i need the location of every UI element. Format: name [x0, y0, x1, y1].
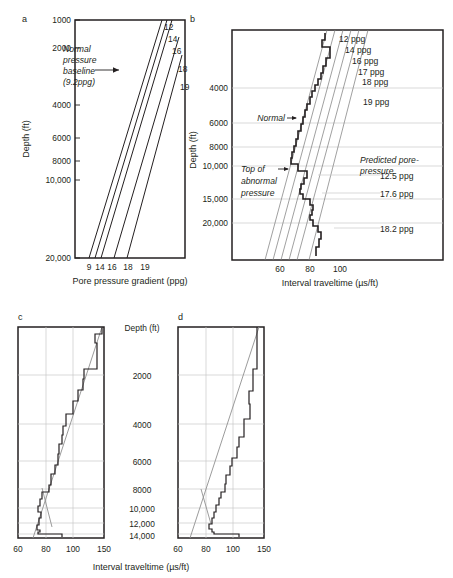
panel-b: b 4000 6000 8000 10,000 15,000 20,000	[188, 14, 443, 288]
panel-a-xtick-19: 19	[140, 262, 150, 272]
panel-b-annot-normal: Normal	[257, 113, 286, 123]
panel-a-label-18: 18	[178, 64, 188, 74]
panel-b-label-17ppg: 17 ppg	[358, 67, 385, 77]
panel-a-ytick-20000: 20,000	[45, 253, 71, 263]
panel-d: d 60 80	[173, 312, 271, 554]
panel-a-label-16: 16	[172, 46, 182, 56]
panel-a: a 1000 2000 4000 6000 8000 10,000 20,000…	[21, 14, 190, 286]
panel-a-xtick-16: 16	[107, 262, 117, 272]
panel-c-letter: c	[18, 312, 23, 322]
panel-b-annot-top-2: abnormal	[241, 176, 278, 186]
panel-c-xtick-150: 150	[97, 544, 111, 554]
panel-b-annot-top-3: pressure	[240, 188, 275, 198]
panel-a-annot-line-2: pressure	[62, 55, 97, 65]
depth-label-6000: 6000	[133, 457, 152, 467]
depth-label-12000: 12,000	[129, 519, 155, 529]
panel-cd-depth-column: Depth (ft) 2000 4000 6000 8000 10,000 12…	[125, 323, 160, 541]
panel-b-sonic-curve-group	[291, 33, 330, 256]
panel-b-normal-annotation: Normal	[257, 113, 297, 123]
panel-a-gradient-lines	[89, 20, 182, 258]
panel-b-line-18ppg	[297, 30, 359, 260]
panel-d-gridlines	[178, 327, 264, 538]
panel-b-label-18ppg: 18 ppg	[362, 77, 389, 87]
panel-d-normal-trend-upper	[190, 327, 259, 538]
panel-b-line-17ppg	[289, 30, 351, 260]
panel-a-xtick-14: 14	[95, 262, 105, 272]
panel-b-top-abnormal-annotation: Top of abnormal pressure	[240, 164, 289, 198]
panel-a-ytick-8000: 8000	[52, 156, 71, 166]
panel-b-annot-top-1: Top of	[241, 164, 266, 174]
panel-b-top-arrow-head	[284, 167, 289, 171]
panel-a-xtick-18: 18	[123, 262, 133, 272]
panel-a-ytick-10000: 10,000	[45, 175, 71, 185]
panel-a-ytick-6000: 6000	[52, 133, 71, 143]
panel-b-ytick-4000: 4000	[209, 83, 228, 93]
depth-label-4000: 4000	[133, 420, 152, 430]
panel-a-annot-line-1: Normal	[63, 44, 92, 54]
figure-svg: a 1000 2000 4000 6000 8000 10,000 20,000…	[0, 0, 453, 578]
depth-label-2000: 2000	[133, 371, 152, 381]
panel-b-predicted-17-6: 17.6 ppg	[380, 189, 414, 199]
panel-d-xtick-100: 100	[226, 544, 240, 554]
panel-c-xtick-60: 60	[13, 544, 23, 554]
panel-b-sonic-step-curve	[291, 33, 330, 256]
depth-label-10000: 10,000	[129, 504, 155, 514]
panel-b-label-14ppg: 14 ppg	[345, 45, 372, 55]
panel-c-plot-frame	[18, 327, 104, 538]
panel-a-xtick-9: 9	[87, 262, 92, 272]
panel-a-line-14	[95, 20, 167, 258]
panel-a-x-axis-title: Pore pressure gradient (ppg)	[72, 276, 187, 286]
panel-d-xtick-60: 60	[173, 544, 183, 554]
panel-b-normal-arrow-head	[292, 116, 297, 120]
panel-b-letter: b	[190, 14, 195, 24]
panel-c-xtick-100: 100	[66, 544, 80, 554]
panel-d-plot-frame	[178, 327, 264, 538]
panel-b-y-axis-title: Depth (ft)	[188, 131, 198, 169]
depth-label-14000: 14,000	[129, 531, 155, 541]
panel-a-label-14: 14	[168, 34, 178, 44]
panel-a-ytick-4000: 4000	[52, 100, 71, 110]
panel-b-label-16ppg: 16 ppg	[352, 56, 379, 66]
panel-b-x-axis-title: Interval traveltime (µs/ft)	[282, 278, 379, 288]
panel-b-leader-lines	[318, 175, 380, 228]
panel-c: c 60 80	[13, 312, 111, 554]
panel-b-label-12ppg: 12 ppg	[339, 34, 366, 44]
panel-c-normal-trend-upper	[33, 327, 102, 538]
panel-a-annot-arrow-head	[113, 67, 119, 72]
panel-a-annot-line-4: (9.2ppg)	[63, 77, 95, 87]
depth-label-8000: 8000	[133, 485, 152, 495]
panel-a-ytick-1000: 1000	[52, 15, 71, 25]
panel-c-gridlines	[18, 327, 104, 538]
panel-cd-x-axis-title: Interval traveltime (µs/ft)	[93, 562, 190, 572]
panel-d-letter: d	[178, 312, 183, 322]
panel-d-xtick-80: 80	[201, 544, 211, 554]
panel-b-xtick-80: 80	[305, 264, 315, 274]
panel-a-letter: a	[22, 14, 27, 24]
panel-b-xtick-60: 60	[275, 264, 285, 274]
panel-a-line-19	[127, 55, 182, 258]
panel-b-predicted-12-5: 12.5 ppg	[380, 171, 414, 181]
panel-b-predicted-block: Predicted pore- pressure 12.5 ppg 17.6 p…	[359, 155, 419, 234]
panel-b-line-16ppg	[281, 30, 343, 260]
panel-b-ytick-15000: 15,000	[202, 194, 228, 204]
panel-a-label-12: 12	[164, 22, 174, 32]
panel-b-predicted-header-1: Predicted pore-	[360, 155, 419, 165]
depth-column-header: Depth (ft)	[125, 323, 160, 333]
panel-b-label-19ppg: 19 ppg	[363, 97, 390, 107]
panel-a-baseline-annotation: Normal pressure baseline (9.2ppg)	[62, 44, 119, 87]
panel-b-xtick-100: 100	[333, 264, 347, 274]
panel-b-ytick-10000: 10,000	[202, 161, 228, 171]
panel-b-ytick-8000: 8000	[209, 142, 228, 152]
panel-b-ytick-20000: 20,000	[202, 218, 228, 228]
panel-c-curves	[33, 327, 102, 538]
panel-b-predicted-18-2: 18.2 ppg	[380, 224, 414, 234]
panel-a-annot-line-3: baseline	[63, 66, 95, 76]
panel-d-xtick-150: 150	[257, 544, 271, 554]
panel-c-xtick-80: 80	[41, 544, 51, 554]
panel-a-label-19: 19	[180, 82, 190, 92]
panel-a-line-12	[89, 20, 162, 258]
panel-d-curves	[190, 327, 259, 538]
panel-a-y-axis-title: Depth (ft)	[21, 120, 31, 158]
panel-b-ytick-6000: 6000	[209, 118, 228, 128]
figure-root: a 1000 2000 4000 6000 8000 10,000 20,000…	[0, 0, 453, 578]
